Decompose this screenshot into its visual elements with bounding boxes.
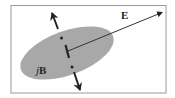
axis-dot-lower [71,66,74,69]
polarization-diagram: E jB [0,0,175,98]
b-field-label: jB [34,64,47,76]
axis-dot-upper [60,37,63,40]
b-field-symbol: B [39,64,47,76]
e-field-label: E [121,9,128,21]
